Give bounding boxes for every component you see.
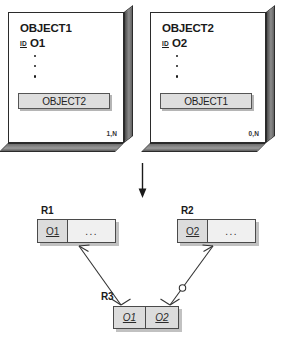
optional-zero-marker-icon bbox=[179, 285, 185, 291]
connector-r3-to-r2 bbox=[161, 245, 214, 305]
relation-r2-label: R2 bbox=[181, 205, 193, 216]
relation-r1-rest-cell: ... bbox=[68, 220, 115, 242]
object-box-1-title: OBJECT1 bbox=[20, 22, 72, 34]
object-box-1-id-tag: ID bbox=[20, 40, 27, 47]
object-box-1-reference-attribute[interactable]: OBJECT2 bbox=[18, 93, 110, 109]
relation-r3-key-cell-2: O2 bbox=[146, 307, 178, 328]
relation-r3-label: R3 bbox=[101, 291, 113, 302]
transform-arrow-icon bbox=[139, 163, 147, 198]
object-box-2-id-value: O2 bbox=[172, 37, 187, 49]
object-box-1-face: OBJECT1 ID O1 OBJECT2 1,N bbox=[8, 12, 124, 143]
relation-r2-rest-cell: ... bbox=[208, 220, 255, 242]
crows-foot-r2 bbox=[203, 245, 214, 252]
object-box-2-reference-attribute[interactable]: OBJECT1 bbox=[160, 93, 252, 109]
object-box-2-identifier: ID O2 bbox=[162, 37, 187, 49]
object-box-2-cardinality: 0,N bbox=[249, 130, 259, 137]
object-box-2-side-3d bbox=[266, 5, 275, 143]
object-box-2-bottom-3d bbox=[141, 143, 266, 152]
schema-diagram: OBJECT1 ID O1 OBJECT2 1,N OBJECT2 ID O2 bbox=[0, 0, 285, 337]
crows-foot-r1 bbox=[79, 245, 90, 252]
object-box-1-identifier: ID O1 bbox=[20, 37, 45, 49]
object-box-2-ellipsis-dots bbox=[176, 55, 178, 78]
relation-r2-key-cell: O2 bbox=[178, 220, 208, 242]
object-box-2-face: OBJECT2 ID O2 OBJECT1 0,N bbox=[150, 12, 266, 143]
object-box-1-cardinality: 1,N bbox=[107, 130, 117, 137]
object-box-1-id-value: O1 bbox=[30, 37, 45, 49]
crows-foot-r3-right bbox=[161, 299, 180, 305]
crows-foot-r3-left bbox=[112, 299, 131, 305]
object-box-2-id-tag: ID bbox=[162, 40, 169, 47]
object-box-1-side-3d bbox=[124, 5, 133, 143]
relation-r1-body: O1 ... bbox=[37, 219, 116, 243]
object-box-1-ellipsis-dots bbox=[34, 55, 36, 78]
relation-r3-body: O1 O2 bbox=[113, 306, 179, 329]
relation-r1-label: R1 bbox=[41, 205, 53, 216]
relation-r2-body: O2 ... bbox=[177, 219, 256, 243]
relation-r3-key-cell-1: O1 bbox=[114, 307, 146, 328]
object-box-1-bottom-3d bbox=[0, 143, 124, 152]
object-box-2-title: OBJECT2 bbox=[162, 22, 214, 34]
relation-r1-key-cell: O1 bbox=[38, 220, 68, 242]
